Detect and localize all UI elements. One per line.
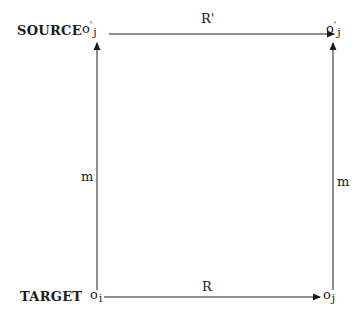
node-base: o	[82, 21, 90, 36]
edge-bottom-label: R	[202, 280, 212, 293]
node-subscript: j	[332, 292, 335, 305]
diagram-edges	[0, 0, 359, 325]
node-subscript: i	[99, 292, 103, 305]
node-subscript: j	[93, 26, 96, 39]
edge-right-label: m	[337, 175, 349, 188]
node-prime: '	[90, 20, 92, 30]
node-source-right: o'j	[326, 22, 341, 35]
node-subscript: j	[337, 26, 340, 39]
target-row-label: TARGET	[20, 290, 82, 303]
node-target-right: oj	[323, 288, 335, 301]
node-base: o	[90, 287, 98, 302]
source-row-label: SOURCE	[17, 24, 82, 37]
node-source-left: o'j	[82, 22, 97, 35]
edge-left-label: m	[81, 170, 93, 183]
node-target-left: oi	[90, 288, 102, 301]
node-base: o	[326, 21, 334, 36]
node-base: o	[323, 287, 331, 302]
edge-top-label: R'	[201, 12, 214, 25]
node-prime: '	[334, 20, 336, 30]
